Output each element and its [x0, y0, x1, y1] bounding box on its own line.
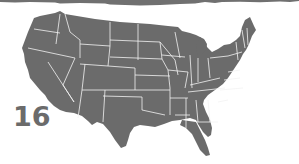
- figure-number: 16: [13, 103, 51, 130]
- us-map: [0, 0, 299, 164]
